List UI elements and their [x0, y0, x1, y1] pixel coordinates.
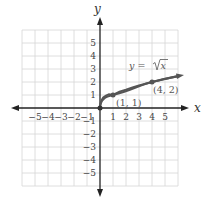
point-1-1-label: (1, 1): [116, 97, 142, 108]
x-tick: 5: [162, 112, 168, 122]
equation-prefix: y =: [128, 60, 145, 71]
y-tick: −5: [83, 168, 97, 178]
x-tick: 3: [136, 112, 142, 122]
y-tick: −2: [83, 129, 96, 139]
x-tick: −5: [28, 112, 42, 122]
y-tick: −3: [83, 142, 97, 152]
x-tick-labels: −5 −4 −3 −2 −1 1 2 3 4 5: [28, 112, 168, 122]
sqrt-function-graph: x y −5 −4 −3 −2 −1 1 2 3 4 5 5 4 3 2 1 −…: [0, 0, 205, 210]
y-tick: −4: [83, 155, 97, 165]
x-axis-right-arrow-icon: [181, 105, 189, 111]
x-axis-label: x: [194, 101, 201, 115]
x-tick: −3: [54, 112, 68, 122]
x-tick: 1: [110, 112, 116, 122]
x-tick: −2: [67, 112, 80, 122]
x-tick: 4: [149, 112, 155, 122]
y-axis-down-arrow-icon: [97, 189, 103, 197]
equation-radicand: x: [161, 60, 167, 71]
y-tick: 2: [90, 77, 96, 87]
x-tick: −4: [41, 112, 55, 122]
y-axis-label: y: [93, 2, 101, 16]
y-tick: 3: [90, 64, 96, 74]
x-axis-left-arrow-icon: [11, 105, 19, 111]
point-origin: [98, 106, 103, 111]
y-axis-up-arrow-icon: [97, 17, 103, 25]
y-tick: 5: [90, 38, 96, 48]
y-tick: 4: [90, 51, 96, 61]
x-tick: 2: [123, 112, 129, 122]
y-tick: −1: [83, 116, 96, 126]
point-1-1: [111, 93, 116, 98]
curve-arrow-icon: [176, 74, 184, 80]
y-tick: 1: [90, 90, 96, 100]
point-4-2-label: (4, 2): [153, 84, 179, 95]
